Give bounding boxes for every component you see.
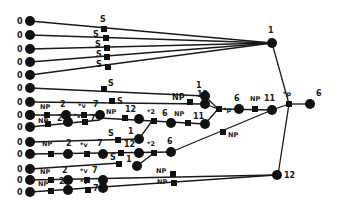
svg-text:7: 7 <box>92 166 98 175</box>
svg-text:NP: NP <box>40 168 50 176</box>
svg-text:2: 2 <box>59 177 65 186</box>
svg-text:12: 12 <box>125 105 136 114</box>
s-box <box>101 26 107 32</box>
s-box <box>104 54 110 60</box>
svg-text:7: 7 <box>90 114 96 123</box>
tree-diagram: S S S S S 1 S 1 S NP 12 NP 2 *v 7 <box>0 0 339 208</box>
middle-structure: S 1 S NP 12 NP 2 *v 7 NP 2 *v 7 NP <box>25 79 322 175</box>
svg-text:6: 6 <box>167 137 173 146</box>
svg-text:*2: *2 <box>147 108 155 116</box>
svg-text:NP: NP <box>172 93 185 102</box>
s-label: S <box>93 30 99 39</box>
svg-text:NP: NP <box>157 178 167 186</box>
svg-text:*2: *2 <box>147 140 155 148</box>
svg-text:0: 0 <box>17 176 23 185</box>
svg-text:S: S <box>110 153 116 162</box>
s-label: S <box>100 15 106 24</box>
svg-text:0: 0 <box>17 71 23 80</box>
svg-text:11: 11 <box>264 94 276 103</box>
s-label: S <box>96 60 102 69</box>
svg-text:0: 0 <box>17 45 23 54</box>
svg-text:*v: *v <box>80 141 88 149</box>
hub-label: 1 <box>268 26 274 35</box>
svg-text:1: 1 <box>128 127 134 136</box>
svg-text:NP: NP <box>38 180 48 188</box>
svg-text:2: 2 <box>62 166 68 175</box>
svg-text:2: 2 <box>57 114 63 123</box>
svg-text:NP: NP <box>174 110 184 118</box>
svg-text:0: 0 <box>17 111 23 120</box>
svg-text:*v: *v <box>80 167 88 175</box>
svg-text:*v: *v <box>78 102 86 110</box>
s-box <box>105 64 111 70</box>
svg-text:NP: NP <box>40 103 50 111</box>
svg-text:S: S <box>108 129 114 138</box>
end-node-6 <box>305 99 315 109</box>
svg-text:7: 7 <box>97 139 103 148</box>
svg-text:*p: *p <box>283 90 291 98</box>
s-box <box>103 35 109 41</box>
s-box <box>104 45 110 51</box>
svg-text:*v: *v <box>73 112 81 120</box>
svg-text:*p: *p <box>223 106 231 114</box>
svg-text:S: S <box>117 97 123 106</box>
svg-text:0: 0 <box>17 123 23 132</box>
svg-text:0: 0 <box>17 150 23 159</box>
svg-text:7: 7 <box>93 100 99 109</box>
svg-text:0: 0 <box>17 31 23 40</box>
s-label: S <box>95 40 101 49</box>
svg-text:2: 2 <box>66 139 72 148</box>
svg-text:0: 0 <box>17 17 23 26</box>
svg-text:6: 6 <box>316 89 322 98</box>
bottom-hub-12 <box>272 170 282 180</box>
svg-text:7: 7 <box>93 184 99 193</box>
svg-text:NP: NP <box>42 140 52 148</box>
svg-text:NP: NP <box>156 167 166 175</box>
s-label: S <box>96 50 102 59</box>
svg-text:6: 6 <box>162 109 168 118</box>
svg-text:11: 11 <box>193 112 205 121</box>
svg-text:NP: NP <box>38 117 48 125</box>
svg-text:0: 0 <box>17 165 23 174</box>
svg-text:12: 12 <box>284 171 295 180</box>
top-fan: S S S S S 1 <box>30 15 277 75</box>
svg-text:6: 6 <box>234 94 240 103</box>
svg-text:0: 0 <box>17 138 23 147</box>
svg-text:1: 1 <box>126 155 132 164</box>
svg-text:0: 0 <box>17 98 23 107</box>
svg-text:0: 0 <box>17 84 23 93</box>
svg-text:NP: NP <box>250 95 260 103</box>
svg-text:*v: *v <box>80 178 88 186</box>
left-leaves: 0 0 0 0 0 0 0 0 0 0 0 0 0 0 <box>17 16 35 197</box>
svg-text:2: 2 <box>60 100 66 109</box>
svg-text:S: S <box>108 79 114 88</box>
svg-text:NP: NP <box>228 131 238 139</box>
svg-text:1: 1 <box>196 81 202 90</box>
svg-text:12: 12 <box>124 140 135 149</box>
svg-text:0: 0 <box>17 58 23 67</box>
svg-text:0: 0 <box>17 188 23 197</box>
svg-text:NP: NP <box>106 108 116 116</box>
